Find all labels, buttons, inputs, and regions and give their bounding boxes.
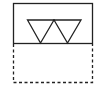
triangle-right <box>54 20 81 43</box>
dashed-box <box>14 44 93 83</box>
triangle-left <box>28 20 55 43</box>
diagram-canvas <box>0 0 99 89</box>
solid-box <box>14 4 93 44</box>
